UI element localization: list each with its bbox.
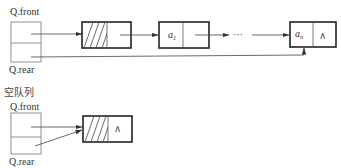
empty-rear-arrow [35,130,82,146]
empty-queue: 空队列 Q.front Q.rear ∧ [4,86,132,167]
queue-pointer-box [11,22,41,62]
empty-rear-label: Q.rear [9,156,35,167]
null-pointer-icon: ∧ [319,30,326,41]
rear-pointer-arrow [31,48,304,57]
node-an: an ∧ [290,22,336,47]
empty-queue-caption: 空队列 [4,86,34,98]
null-pointer-icon: ∧ [114,123,121,134]
ellipsis: ··· [233,29,243,40]
front-label: Q.front [10,6,39,17]
node-a1-data: a1 [168,29,176,41]
linked-queue-diagram: Q.front Q.rear a1 ··· [0,0,341,168]
node-an-data: an [295,28,303,40]
empty-head-node: ∧ [83,116,132,142]
nonempty-queue: Q.front Q.rear a1 ··· [9,6,336,75]
rear-label: Q.rear [9,64,35,75]
empty-front-label: Q.front [10,101,39,112]
empty-pointer-box [11,113,41,154]
